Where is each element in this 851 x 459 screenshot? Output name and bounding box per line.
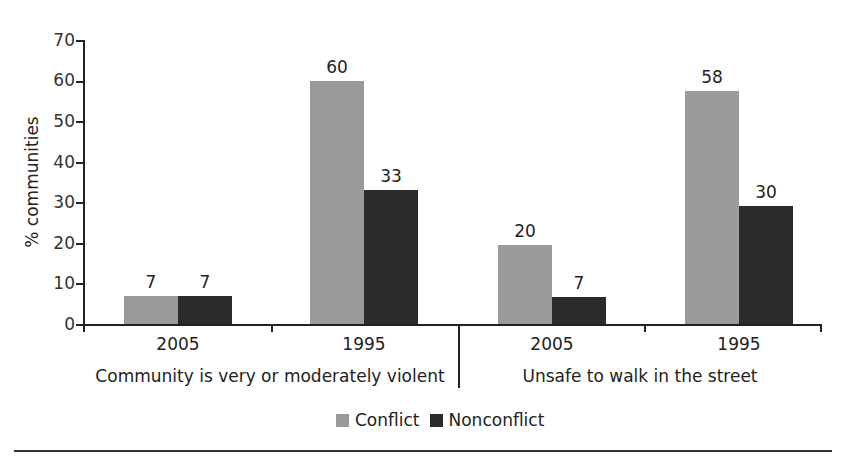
value-label: 7: [178, 274, 232, 291]
value-label: 33: [364, 168, 418, 185]
y-tick-label: 50: [45, 113, 75, 130]
y-tick-label: 20: [45, 235, 75, 252]
x-category-label: 1995: [314, 336, 414, 353]
x-tick: [820, 324, 822, 332]
y-tick: [76, 121, 84, 123]
legend-label: Nonconflict: [449, 410, 545, 430]
x-axis-line: [83, 324, 821, 326]
bar-conflict-unsafe-2005: [498, 245, 552, 324]
value-label: 7: [552, 275, 606, 292]
group-separator: [458, 324, 460, 388]
bar-conflict-unsafe-1995: [685, 91, 739, 324]
value-label: 30: [739, 184, 793, 201]
y-tick: [76, 283, 84, 285]
y-tick: [76, 202, 84, 204]
bar-conflict-violent-2005: [124, 296, 178, 324]
x-category-label: 1995: [689, 336, 789, 353]
y-tick: [76, 243, 84, 245]
y-tick: [76, 81, 84, 83]
bottom-rule: [14, 450, 832, 452]
legend: Conflict Nonconflict: [336, 410, 554, 430]
bar-nonconflict-violent-2005: [178, 296, 232, 324]
bar-nonconflict-unsafe-1995: [739, 206, 793, 324]
x-tick: [644, 324, 646, 332]
legend-swatch-nonconflict: [430, 414, 443, 427]
x-category-label: 2005: [502, 336, 602, 353]
legend-swatch-conflict: [336, 414, 349, 427]
y-tick-label: 40: [45, 154, 75, 171]
legend-item-nonconflict: Nonconflict: [430, 410, 545, 430]
y-tick: [76, 162, 84, 164]
y-tick-label: 60: [45, 72, 75, 89]
x-tick: [271, 324, 273, 332]
bar-chart: % communities 0 10 20 30 40 50 60 70 7 7…: [0, 0, 851, 459]
y-tick-label: 10: [45, 275, 75, 292]
value-label: 20: [498, 223, 552, 240]
x-category-label: 2005: [128, 336, 228, 353]
bar-nonconflict-violent-1995: [364, 190, 418, 324]
y-tick-label: 0: [45, 316, 75, 333]
y-tick-label: 70: [45, 32, 75, 49]
bar-conflict-violent-1995: [310, 81, 364, 324]
y-tick: [76, 40, 84, 42]
x-group-label: Community is very or moderately violent: [84, 368, 456, 385]
y-tick-label: 30: [45, 194, 75, 211]
y-axis-title: % communities: [22, 112, 42, 252]
x-group-label: Unsafe to walk in the street: [462, 368, 818, 385]
bar-nonconflict-unsafe-2005: [552, 297, 606, 324]
x-tick: [83, 324, 85, 332]
value-label: 60: [310, 59, 364, 76]
value-label: 58: [685, 69, 739, 86]
legend-label: Conflict: [355, 410, 420, 430]
legend-item-conflict: Conflict: [336, 410, 420, 430]
value-label: 7: [124, 274, 178, 291]
